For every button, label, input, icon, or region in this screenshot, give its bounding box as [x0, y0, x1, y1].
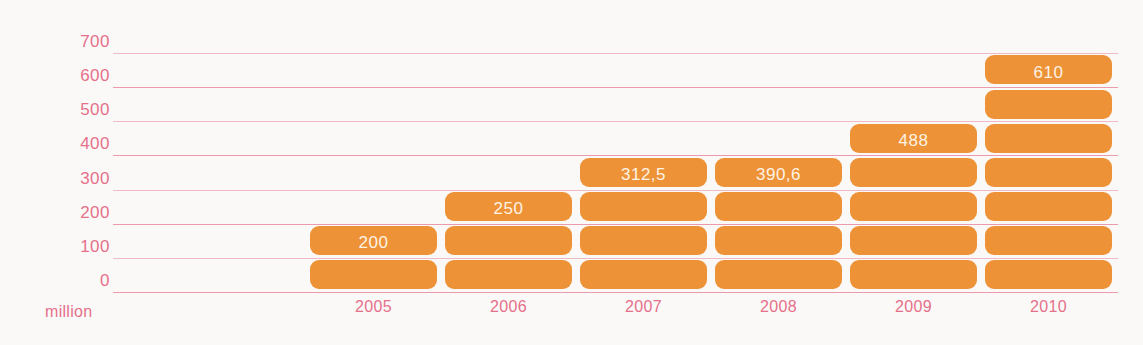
bar-segment [985, 226, 1112, 255]
y-axis-tick-600: 600 [0, 67, 110, 84]
bar-segment [850, 260, 977, 289]
bar-2005[interactable]: 200 [310, 0, 437, 292]
y-axis-tick-300: 300 [0, 170, 110, 187]
bar-2009[interactable]: 488 [850, 0, 977, 292]
bar-segment [715, 260, 842, 289]
bar-segment [445, 226, 572, 255]
bar-segment [445, 192, 572, 221]
bar-segment [985, 55, 1112, 84]
y-axis-tick-500: 500 [0, 101, 110, 118]
x-axis-tick-2006: 2006 [445, 299, 572, 315]
bar-segment [445, 260, 572, 289]
bar-segment [580, 260, 707, 289]
gridline-0 [113, 292, 1118, 293]
y-axis-tick-400: 400 [0, 135, 110, 152]
y-axis-tick-200: 200 [0, 204, 110, 221]
y-axis-tick-0: 0 [0, 272, 110, 289]
bar-2006[interactable]: 250 [445, 0, 572, 292]
x-axis-tick-2008: 2008 [715, 299, 842, 315]
bar-segment [985, 158, 1112, 187]
bar-segment [850, 226, 977, 255]
bar-segment [310, 226, 437, 255]
bar-chart: 0100200300400500600700 million 200250312… [0, 0, 1143, 345]
bar-segment [850, 124, 977, 153]
y-axis-unit-label: million [45, 304, 92, 320]
x-axis-tick-2005: 2005 [310, 299, 437, 315]
bar-segment [715, 158, 842, 187]
bar-segment [985, 192, 1112, 221]
bar-segment [580, 226, 707, 255]
bar-segment [580, 158, 707, 187]
bar-segment [985, 90, 1112, 119]
y-axis-tick-100: 100 [0, 238, 110, 255]
bar-segment [985, 124, 1112, 153]
y-axis-tick-700: 700 [0, 33, 110, 50]
bar-segment [580, 192, 707, 221]
bar-segment [850, 158, 977, 187]
bar-segment [310, 260, 437, 289]
bar-2010[interactable]: 610 [985, 0, 1112, 292]
bar-segment [985, 260, 1112, 289]
bar-segment [850, 192, 977, 221]
bar-2008[interactable]: 390,6 [715, 0, 842, 292]
x-axis-tick-2007: 2007 [580, 299, 707, 315]
x-axis-tick-2009: 2009 [850, 299, 977, 315]
x-axis-tick-2010: 2010 [985, 299, 1112, 315]
bar-segment [715, 192, 842, 221]
bar-2007[interactable]: 312,5 [580, 0, 707, 292]
bar-segment [715, 226, 842, 255]
